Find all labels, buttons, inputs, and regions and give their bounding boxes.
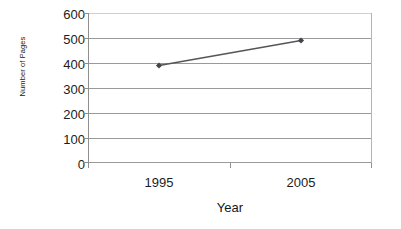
x-tick-mark bbox=[88, 163, 89, 168]
x-axis-tick-label: 2005 bbox=[230, 176, 372, 190]
y-axis-tick-label: 600 bbox=[52, 8, 85, 21]
y-axis-tick-label: 400 bbox=[52, 58, 85, 71]
data-series-line bbox=[88, 13, 372, 163]
y-axis-tick-label: 500 bbox=[52, 33, 85, 46]
y-axis-tick-label: 0 bbox=[52, 158, 85, 171]
data-point-marker bbox=[298, 37, 304, 43]
x-tick-mark bbox=[371, 163, 372, 168]
x-tick-mark bbox=[230, 163, 231, 168]
x-axis-tick-label-group: 1995 2005 bbox=[88, 176, 372, 194]
y-axis-tick-label: 300 bbox=[52, 83, 85, 96]
y-axis-tick-label: 200 bbox=[52, 108, 85, 121]
y-axis-title: Number of Pages bbox=[18, 31, 27, 103]
line-chart-figure: Number of Pages 600 500 400 300 200 100 … bbox=[0, 0, 401, 229]
x-axis-tick-label: 1995 bbox=[88, 176, 230, 190]
series-polyline bbox=[159, 41, 301, 66]
y-axis-tick-label-group: 600 500 400 300 200 100 0 bbox=[52, 5, 85, 165]
plot-area bbox=[88, 13, 372, 163]
x-axis-title: Year bbox=[88, 201, 372, 215]
y-axis-tick-label: 100 bbox=[52, 133, 85, 146]
data-point-marker bbox=[156, 62, 162, 68]
